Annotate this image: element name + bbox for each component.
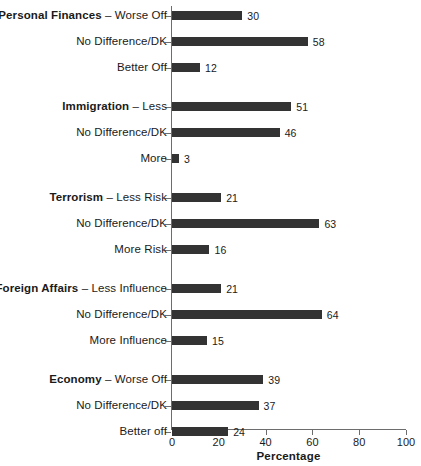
group-name: Terrorism bbox=[49, 191, 103, 203]
category-label: More Influence bbox=[90, 334, 167, 346]
x-axis-tick-label: 60 bbox=[306, 436, 318, 448]
bar-value-label: 46 bbox=[285, 127, 297, 139]
bar-value-label: 30 bbox=[247, 10, 259, 22]
bar-value-label: 37 bbox=[264, 400, 276, 412]
bar-value-label: 63 bbox=[324, 218, 336, 230]
category-label: Economy – Worse Off bbox=[49, 373, 167, 385]
x-axis-tick bbox=[266, 430, 267, 435]
category-label: Terrorism – Less Risk bbox=[49, 191, 167, 203]
category-label: Better Off bbox=[117, 61, 167, 73]
bar-value-label: 39 bbox=[268, 374, 280, 386]
bar bbox=[172, 284, 221, 293]
bar bbox=[172, 401, 259, 410]
plot-area: 020406080100 305812514632163162164153937… bbox=[0, 0, 421, 466]
category-label: No Difference/DK bbox=[76, 217, 167, 229]
category-label: No Difference/DK bbox=[76, 126, 167, 138]
bar-value-label: 21 bbox=[226, 283, 238, 295]
category-label: More Risk bbox=[114, 243, 167, 255]
category-label: Immigration – Less bbox=[62, 100, 167, 112]
x-axis-tick-label: 80 bbox=[353, 436, 365, 448]
x-axis-title: Percentage bbox=[171, 450, 406, 462]
bar bbox=[172, 310, 322, 319]
bar-value-label: 3 bbox=[184, 153, 190, 165]
category-name: – Less Risk bbox=[103, 191, 167, 203]
x-axis-tick bbox=[312, 430, 313, 435]
bar-value-label: 51 bbox=[296, 101, 308, 113]
x-axis-tick-label: 20 bbox=[213, 436, 225, 448]
category-name: – Worse Off bbox=[102, 373, 167, 385]
bar-chart: 020406080100 305812514632163162164153937… bbox=[0, 0, 421, 466]
bar bbox=[172, 193, 221, 202]
bar bbox=[172, 37, 308, 46]
bar-value-label: 15 bbox=[212, 335, 224, 347]
bar bbox=[172, 427, 228, 436]
x-axis-tick bbox=[406, 430, 407, 435]
category-label: Foreign Affairs – Less Influence bbox=[0, 282, 167, 294]
bar bbox=[172, 219, 319, 228]
bar bbox=[172, 336, 207, 345]
category-label: Better off bbox=[120, 425, 167, 437]
bar bbox=[172, 102, 291, 111]
bar-value-label: 24 bbox=[233, 426, 245, 438]
bar-value-label: 16 bbox=[214, 244, 226, 256]
category-label: More bbox=[140, 152, 167, 164]
bar-value-label: 12 bbox=[205, 62, 217, 74]
group-name: Foreign Affairs bbox=[0, 282, 78, 294]
bar bbox=[172, 11, 242, 20]
bar bbox=[172, 245, 209, 254]
group-name: Immigration bbox=[62, 100, 129, 112]
category-name: – Worse Off bbox=[102, 9, 167, 21]
category-label: Personal Finances – Worse Off bbox=[0, 9, 167, 21]
x-axis-tick-label: 40 bbox=[259, 436, 271, 448]
bar-value-label: 64 bbox=[327, 309, 339, 321]
category-label: No Difference/DK bbox=[76, 399, 167, 411]
group-name: Economy bbox=[49, 373, 101, 385]
bar-value-label: 58 bbox=[313, 36, 325, 48]
x-axis-tick-label: 0 bbox=[169, 436, 175, 448]
category-label: No Difference/DK bbox=[76, 35, 167, 47]
bar bbox=[172, 154, 179, 163]
category-name: – Less Influence bbox=[78, 282, 167, 294]
category-name: – Less bbox=[129, 100, 167, 112]
bar bbox=[172, 375, 263, 384]
bar-value-label: 21 bbox=[226, 192, 238, 204]
group-name: Personal Finances bbox=[0, 9, 102, 21]
x-axis-tick-label: 100 bbox=[397, 436, 416, 448]
x-axis-tick bbox=[359, 430, 360, 435]
bar bbox=[172, 63, 200, 72]
category-label: No Difference/DK bbox=[76, 308, 167, 320]
bar bbox=[172, 128, 280, 137]
